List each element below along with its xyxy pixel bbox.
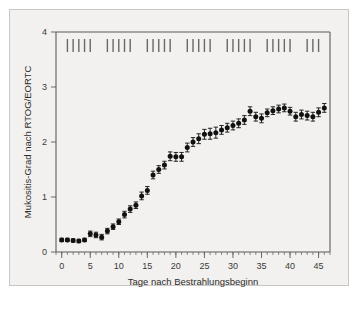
x-tick-label: 25 — [199, 261, 209, 271]
data-point — [59, 237, 64, 242]
data-point — [322, 105, 327, 110]
x-tick-label: 35 — [256, 261, 266, 271]
fraction-tick-marks — [67, 39, 318, 52]
x-tick-label: 5 — [88, 261, 93, 271]
data-point — [282, 105, 287, 110]
data-point — [111, 224, 116, 229]
data-point — [116, 219, 121, 224]
data-point — [93, 232, 98, 237]
data-point — [65, 237, 70, 242]
x-tick-label: 15 — [142, 261, 152, 271]
data-point — [305, 113, 310, 118]
data-point — [253, 114, 258, 119]
data-point — [230, 123, 235, 128]
data-point — [213, 130, 218, 135]
data-point — [76, 239, 81, 244]
x-tick-label: 0 — [59, 261, 64, 271]
y-tick-label: 3 — [42, 82, 47, 92]
data-point — [196, 136, 201, 141]
x-tick-label: 40 — [285, 261, 295, 271]
y-tick-label: 1 — [42, 192, 47, 202]
data-point — [168, 154, 173, 159]
data-point — [236, 121, 241, 126]
figure-container: 05101520253035404501234 Tage nach Bestra… — [0, 0, 360, 310]
axes — [51, 32, 330, 258]
x-tick-label: 30 — [228, 261, 238, 271]
data-point — [162, 163, 167, 168]
data-point — [185, 145, 190, 150]
data-point — [173, 154, 178, 159]
data-point — [145, 188, 150, 193]
data-points — [59, 105, 327, 243]
data-point — [259, 116, 264, 121]
data-point — [225, 125, 230, 130]
x-axis-title: Tage nach Bestrahlungsbeginn — [128, 276, 258, 287]
data-point — [299, 112, 304, 117]
data-point — [156, 167, 161, 172]
data-point — [219, 127, 224, 132]
data-point — [151, 173, 156, 178]
data-point — [310, 114, 315, 119]
chart-plot: 05101520253035404501234 Tage nach Bestra… — [0, 0, 360, 310]
x-tick-label: 10 — [114, 261, 124, 271]
y-axis-title: Mukositis-Grad nach RTOG/EORTC — [22, 66, 33, 219]
data-point — [82, 237, 87, 242]
data-point — [71, 238, 76, 243]
data-point — [288, 109, 293, 114]
data-point — [88, 231, 93, 236]
data-point — [99, 235, 104, 240]
data-point — [208, 131, 213, 136]
data-point — [248, 109, 253, 114]
y-tick-label: 0 — [42, 247, 47, 257]
x-tick-label: 20 — [171, 261, 181, 271]
data-point — [105, 229, 110, 234]
data-point — [270, 108, 275, 113]
data-point — [133, 203, 138, 208]
data-point — [242, 118, 247, 123]
data-point — [265, 110, 270, 115]
data-point — [293, 114, 298, 119]
error-bars — [60, 104, 327, 243]
y-tick-label: 2 — [42, 137, 47, 147]
data-point — [139, 193, 144, 198]
data-point — [202, 132, 207, 137]
data-point — [122, 212, 127, 217]
data-point — [316, 110, 321, 115]
y-tick-label: 4 — [42, 27, 47, 37]
data-point — [191, 140, 196, 145]
x-tick-label: 45 — [314, 261, 324, 271]
data-point — [179, 154, 184, 159]
data-point — [276, 107, 281, 112]
data-point — [128, 207, 133, 212]
tick-labels: 05101520253035404501234 — [42, 27, 324, 271]
